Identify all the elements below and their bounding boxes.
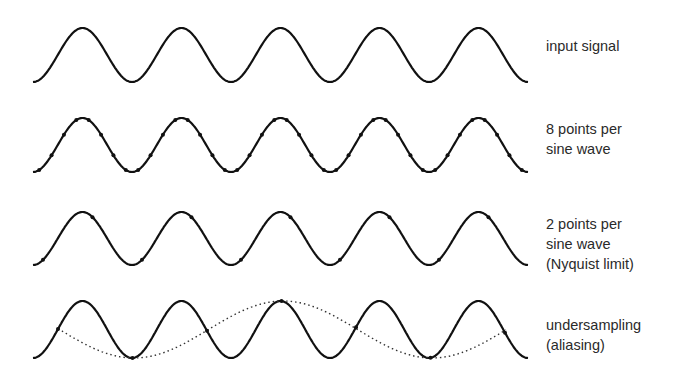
label-undersampling: undersampling (aliasing): [546, 315, 641, 355]
row-input-signal: [33, 28, 528, 82]
sample-point: [190, 215, 194, 219]
sample-point: [248, 153, 252, 157]
sample-point: [62, 133, 66, 137]
label-line: input signal: [546, 36, 619, 56]
sample-point: [131, 356, 135, 360]
sample-point: [149, 153, 153, 157]
sample-point: [210, 153, 214, 157]
sample-point: [56, 327, 60, 331]
label-input-signal: input signal: [546, 36, 619, 56]
sample-point: [507, 153, 511, 157]
sample-point: [347, 153, 351, 157]
label-nyquist: 2 points per sine wave (Nyquist limit): [546, 214, 634, 274]
sample-point: [495, 133, 499, 137]
sample-point: [186, 118, 190, 122]
sample-point: [124, 168, 128, 172]
sample-point: [309, 153, 313, 157]
sample-point: [446, 153, 450, 157]
sample-point: [297, 133, 301, 137]
sample-point: [371, 118, 375, 122]
sample-point: [503, 331, 507, 335]
sample-point: [260, 133, 264, 137]
sample-point: [433, 168, 437, 172]
sample-point: [173, 118, 177, 122]
sample-point: [37, 168, 41, 172]
sample-point: [487, 215, 491, 219]
sample-point: [74, 118, 78, 122]
sample-point: [280, 299, 284, 303]
sample-point: [223, 168, 227, 172]
sample-point: [285, 118, 289, 122]
label-line: sine wave: [546, 234, 634, 254]
input-sine-wave: [33, 28, 528, 82]
sample-point: [388, 215, 392, 219]
sample-point: [437, 258, 441, 262]
sample-point: [338, 258, 342, 262]
sample-point: [289, 215, 293, 219]
row-8-points: [33, 118, 528, 172]
sample-point: [396, 133, 400, 137]
label-line: (aliasing): [546, 335, 641, 355]
sample-point: [239, 258, 243, 262]
sample-point: [41, 258, 45, 262]
sample-point: [50, 153, 54, 157]
sample-point: [111, 153, 115, 157]
sample-point: [205, 329, 209, 333]
label-8-points: 8 points per sine wave: [546, 119, 622, 159]
label-line: sine wave: [546, 139, 622, 159]
sample-point: [384, 118, 388, 122]
sample-point: [272, 118, 276, 122]
row-undersampling: [33, 299, 528, 360]
sample-point: [322, 168, 326, 172]
sample-point: [235, 168, 239, 172]
sample-point: [429, 356, 433, 360]
sampled-sine-wave-8-points: [33, 118, 528, 172]
sample-point: [161, 133, 165, 137]
sample-point: [136, 168, 140, 172]
label-line: 8 points per: [546, 119, 622, 139]
sample-point: [87, 118, 91, 122]
label-line: undersampling: [546, 315, 641, 335]
sample-point: [140, 258, 144, 262]
sample-point: [408, 153, 412, 157]
sample-point: [458, 133, 462, 137]
label-line: (Nyquist limit): [546, 254, 634, 274]
row-2-points: [33, 212, 528, 265]
sample-point: [483, 118, 487, 122]
sample-point: [470, 118, 474, 122]
sample-point: [334, 168, 338, 172]
label-line: 2 points per: [546, 214, 634, 234]
sample-point: [520, 168, 524, 172]
sampled-sine-wave-undersampled: [33, 301, 528, 358]
sample-point: [91, 215, 95, 219]
sample-point: [99, 133, 103, 137]
sample-point-markers: [37, 118, 524, 172]
sample-point: [354, 325, 358, 329]
sample-point: [359, 133, 363, 137]
aliased-wave-dotted: [58, 301, 506, 358]
sample-point: [198, 133, 202, 137]
sample-point: [421, 168, 425, 172]
sampled-sine-wave-2-points: [33, 212, 528, 265]
